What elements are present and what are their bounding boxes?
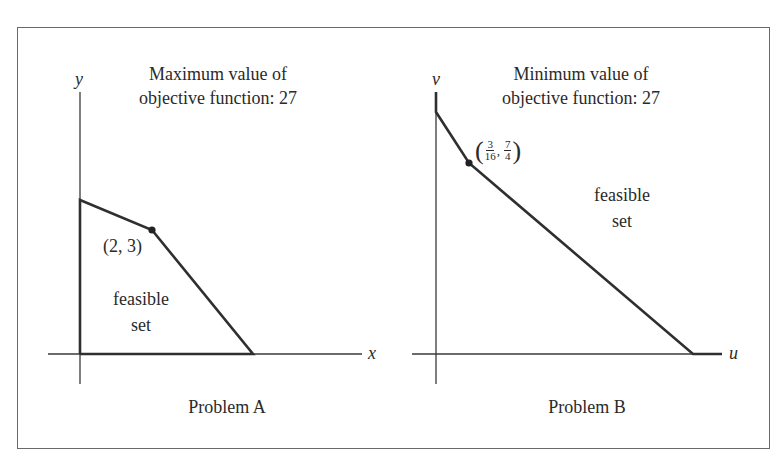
u-fraction: 3 16 [485,139,496,162]
panel-b-caption: Problem B [548,396,626,418]
panel-a-feasible-boundary [80,200,253,354]
u-axis-label: u [729,342,738,364]
panel-b-point-label: ( 3 16 , 7 4 ) [475,139,521,164]
panel-a-point-label: (2, 3) [103,235,142,257]
panel-b-title-line1: Minimum value of [514,63,649,85]
panel-b-region-label-line2: set [612,210,632,232]
graphs-canvas [0,0,778,464]
panel-b-region-label-line1: feasible [594,184,650,206]
panel-b-feasible-boundary [436,92,722,354]
panel-a-optimal-point [148,226,155,233]
dual-lp-figure: Maximum value of objective function: 27 … [0,0,778,464]
v-fraction: 7 4 [504,139,512,162]
left-paren: ( [475,140,484,162]
v-denominator: 4 [505,151,511,162]
right-paren: ) [512,140,521,162]
panel-a-region-label-line1: feasible [113,288,169,310]
panel-a-title-line1: Maximum value of [149,63,287,85]
panel-b-title-line2: objective function: 27 [502,87,660,109]
y-axis-label: y [75,68,83,90]
x-axis-label: x [368,342,376,364]
panel-a-region-label-line2: set [131,314,151,336]
panel-a-title-line2: objective function: 27 [139,87,297,109]
v-axis-label: v [432,68,440,90]
comma: , [497,140,500,162]
panel-b-optimal-point [465,159,472,166]
u-denominator: 16 [485,151,496,162]
panel-a-caption: Problem A [188,396,266,418]
panel-a-axes [48,92,362,384]
